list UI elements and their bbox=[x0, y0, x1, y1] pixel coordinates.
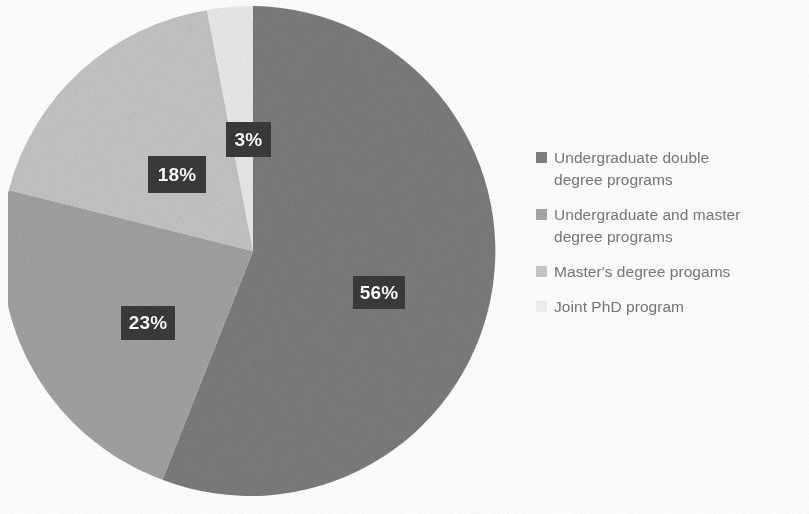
legend-item-label: Master's degree progams bbox=[554, 261, 730, 283]
data-label-masters-degree: 18% bbox=[148, 156, 206, 193]
legend-item-joint-phd[interactable]: Joint PhD program bbox=[536, 296, 809, 318]
data-label-undergraduate-and-master-degree: 23% bbox=[121, 306, 175, 340]
legend-item-undergraduate-and-master-degree[interactable]: Undergraduate and master degree programs bbox=[536, 204, 809, 248]
pie-svg bbox=[8, 5, 498, 497]
legend-swatch-icon bbox=[536, 266, 547, 277]
data-label-joint-phd: 3% bbox=[226, 122, 271, 157]
pie-graphic: 56% 23% 18% 3% bbox=[8, 5, 498, 497]
legend-item-label: Undergraduate double degree programs bbox=[554, 147, 709, 191]
legend-swatch-icon bbox=[536, 209, 547, 220]
legend-item-label: Undergraduate and master degree programs bbox=[554, 204, 740, 248]
data-label-undergraduate-double-degree: 56% bbox=[353, 276, 405, 309]
legend-item-masters-degree[interactable]: Master's degree progams bbox=[536, 261, 809, 283]
legend-item-undergraduate-double-degree[interactable]: Undergraduate double degree programs bbox=[536, 147, 809, 191]
legend-item-label: Joint PhD program bbox=[554, 296, 684, 318]
legend-swatch-icon bbox=[536, 152, 547, 163]
legend-swatch-icon bbox=[536, 301, 547, 312]
legend: Undergraduate double degree programs Und… bbox=[536, 147, 809, 331]
pie-chart: 56% 23% 18% 3% Undergraduate double degr… bbox=[0, 0, 809, 514]
